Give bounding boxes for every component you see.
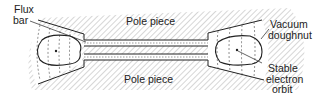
electron-orbit-right bbox=[236, 49, 238, 51]
label-orbit: orbit bbox=[272, 83, 293, 95]
label-pole-piece-bottom: Pole piece bbox=[124, 73, 173, 85]
betatron-diagram: Flux bar Pole piece Pole piece Vacuum do… bbox=[0, 0, 317, 103]
electron-orbit-left bbox=[55, 50, 57, 52]
label-doughnut: doughnut bbox=[268, 29, 312, 41]
label-pole-piece-top: Pole piece bbox=[126, 15, 175, 27]
label-bar: bar bbox=[13, 14, 29, 26]
